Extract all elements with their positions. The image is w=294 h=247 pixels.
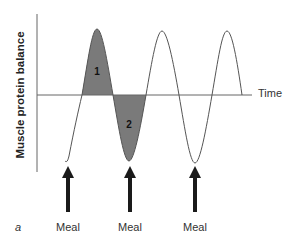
x-axis-label: Time xyxy=(258,87,282,99)
region-1-label: 1 xyxy=(94,66,100,77)
panel-label: a xyxy=(15,221,21,233)
region-1-shade xyxy=(82,29,113,95)
meal-arrow-2 xyxy=(124,166,136,212)
meal-label-1: Meal xyxy=(56,221,80,233)
y-axis-label: Muscle protein balance xyxy=(14,31,26,158)
diagram-canvas xyxy=(0,0,294,247)
meal-arrow-3 xyxy=(189,166,201,212)
meal-label-3: Meal xyxy=(183,221,207,233)
muscle-protein-balance-diagram: Muscle protein balance Time 1 2 a Meal M… xyxy=(0,0,294,247)
meal-label-2: Meal xyxy=(118,221,142,233)
region-2-label: 2 xyxy=(126,119,132,130)
meal-arrow-1 xyxy=(62,166,74,212)
